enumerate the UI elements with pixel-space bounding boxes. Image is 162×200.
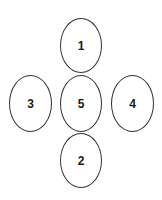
ellipse-3-left: 3 — [9, 75, 52, 132]
ellipse-label: 1 — [78, 39, 85, 53]
ellipse-label: 3 — [27, 97, 34, 111]
ellipse-2-bottom: 2 — [60, 133, 102, 188]
ellipse-label: 5 — [78, 97, 85, 111]
ellipse-4-right: 4 — [111, 75, 154, 132]
ellipse-label: 2 — [78, 154, 85, 168]
ellipse-5-center: 5 — [60, 75, 102, 132]
ellipse-1-top: 1 — [60, 18, 102, 73]
ellipse-label: 4 — [129, 97, 136, 111]
